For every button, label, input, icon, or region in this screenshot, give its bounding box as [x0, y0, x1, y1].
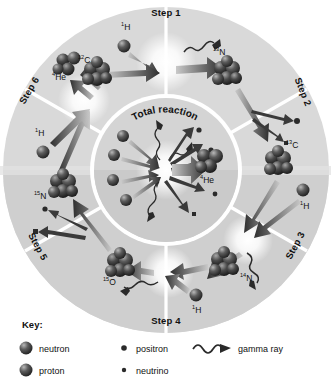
key-label-gamma-ray: gamma ray [238, 344, 284, 354]
positron-total-1 [196, 127, 201, 132]
nucleus-h1-step6 [37, 146, 50, 159]
step-label-step4: Step 4 [151, 315, 181, 326]
key-label-neutron: neutron [39, 344, 70, 354]
cno-cycle-diagram: 12C 1H 13N 13C 1H 14N 1H 15O 15N 1H 4He … [0, 0, 331, 385]
neutrino-icon [122, 368, 126, 372]
proton-in-2 [108, 149, 120, 161]
neutrino-total-2 [192, 212, 196, 216]
key-label-positron: positron [136, 344, 168, 354]
nucleus-h1-step3 [297, 184, 310, 197]
proton-in-1 [117, 130, 129, 142]
nucleus-h1-step1 [118, 40, 131, 53]
proton-in-3 [107, 174, 119, 186]
neutrino-total-1 [213, 192, 218, 197]
proton-in-4 [120, 194, 132, 206]
positron-step2 [294, 118, 300, 124]
step-label-step1: Step 1 [151, 7, 181, 18]
nucleus-h1-step4 [190, 289, 203, 302]
neutron-icon [20, 342, 33, 355]
key-title: Key: [22, 319, 43, 330]
proton-icon [20, 364, 33, 377]
key-label-proton: proton [39, 366, 65, 376]
burst-step1 [136, 32, 196, 92]
positron-step5 [42, 206, 47, 211]
positron-icon [121, 345, 127, 351]
gamma-ray-icon [193, 344, 231, 353]
key-label-neutrino: neutrino [136, 366, 169, 376]
